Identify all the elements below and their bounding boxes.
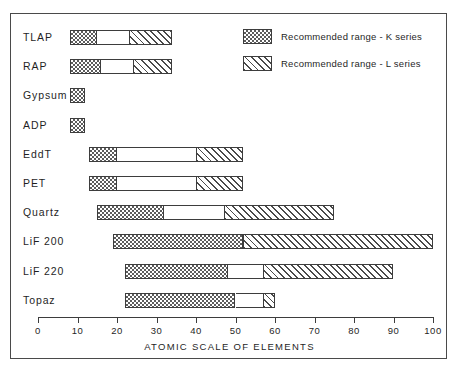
bar-segment-k-series [70, 30, 98, 45]
x-axis: ATOMIC SCALE OF ELEMENTS 010203040506070… [11, 317, 448, 361]
bar-gap [117, 176, 196, 191]
bar-gap [236, 293, 264, 308]
legend-item-l-series: Recommended range - L series [243, 53, 443, 80]
bar-segment-k-series [89, 147, 117, 162]
bar-segment-l-series [263, 293, 275, 308]
bar-segment-l-series [263, 264, 393, 279]
legend-label-k-series: Recommended range - K series [281, 26, 422, 47]
x-tick-label: 10 [72, 325, 84, 336]
chart-row: PET [11, 172, 448, 194]
bar-segment-k-series [70, 118, 86, 133]
x-tick [157, 317, 158, 323]
x-tick [236, 317, 237, 323]
bar-segment-k-series [89, 176, 117, 191]
bar-segment-l-series [243, 234, 433, 249]
x-tick-label: 100 [424, 325, 441, 336]
x-tick [315, 317, 316, 323]
chart-row: ADP [11, 114, 448, 136]
x-tick-label: 80 [348, 325, 360, 336]
chart-row: LiF 220 [11, 260, 448, 282]
bar-gap [101, 59, 133, 74]
row-label-pet: PET [23, 172, 85, 194]
bar-gap [117, 147, 196, 162]
x-tick [196, 317, 197, 323]
x-tick-label: 70 [309, 325, 321, 336]
x-tick [433, 317, 434, 323]
row-label-lif-200: LiF 200 [23, 230, 85, 252]
x-tick [78, 317, 79, 323]
legend-label-l-series: Recommended range - L series [281, 53, 421, 74]
x-tick [354, 317, 355, 323]
x-tick [394, 317, 395, 323]
chart-row: Quartz [11, 201, 448, 223]
chart-row: Gypsum [11, 84, 448, 106]
bar-segment-k-series [125, 264, 228, 279]
bar-gap [228, 264, 264, 279]
x-tick-label: 40 [190, 325, 202, 336]
x-tick-label: 0 [35, 325, 41, 336]
bar-segment-l-series [129, 30, 172, 45]
legend-item-k-series: Recommended range - K series [243, 26, 443, 53]
bar-gap [97, 30, 129, 45]
x-tick-label: 60 [269, 325, 281, 336]
bar-segment-l-series [196, 176, 243, 191]
bar-segment-k-series [125, 293, 236, 308]
x-tick-label: 90 [388, 325, 400, 336]
row-label-eddt: EddT [23, 143, 85, 165]
row-label-topaz: Topaz [23, 289, 85, 311]
chart-row: LiF 200 [11, 230, 448, 252]
x-tick [275, 317, 276, 323]
chart-legend: Recommended range - K seriesRecommended … [243, 26, 443, 80]
x-tick-label: 30 [151, 325, 163, 336]
x-tick-label: 20 [111, 325, 123, 336]
legend-swatch-l-series [243, 56, 272, 71]
bar-segment-k-series [70, 59, 102, 74]
x-tick [117, 317, 118, 323]
row-label-quartz: Quartz [23, 201, 85, 223]
chart-frame: TLAPRAPGypsumADPEddTPETQuartzLiF 200LiF … [10, 13, 447, 359]
x-tick-label: 50 [230, 325, 242, 336]
chart-row: Topaz [11, 289, 448, 311]
bar-segment-l-series [224, 205, 335, 220]
legend-swatch-k-series [243, 29, 272, 44]
bar-gap [164, 205, 223, 220]
bar-segment-l-series [196, 147, 243, 162]
bar-segment-k-series [97, 205, 164, 220]
x-tick [38, 317, 39, 323]
bar-segment-l-series [133, 59, 173, 74]
bar-segment-k-series [70, 88, 86, 103]
bar-segment-k-series [113, 234, 243, 249]
row-label-lif-220: LiF 220 [23, 260, 85, 282]
x-axis-title: ATOMIC SCALE OF ELEMENTS [11, 341, 448, 352]
chart-row: EddT [11, 143, 448, 165]
